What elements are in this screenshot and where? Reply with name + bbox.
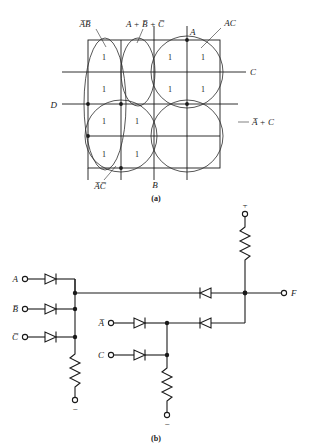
supply-terminal-negative-2[interactable] xyxy=(164,412,169,417)
axis-label-a: A xyxy=(189,27,196,37)
input-label-cbar: C̅ xyxy=(12,332,19,342)
label-ab-bar: A̅B̅ xyxy=(79,19,91,29)
diode-cbar xyxy=(45,332,56,343)
input-terminal-c[interactable] xyxy=(108,352,113,357)
kmap-cell-r1c0: 1 xyxy=(102,85,106,94)
kmap-cell-r0c0: 1 xyxy=(102,53,106,62)
kmap-cell-r1c3: 1 xyxy=(201,85,205,94)
kmap-cell-r2c0: 1 xyxy=(102,117,106,126)
diode-c xyxy=(134,350,145,361)
leader-a-bbar-cbar xyxy=(137,29,143,43)
supply-label-positive: + xyxy=(242,205,247,210)
diode-a xyxy=(45,274,56,285)
caption-panel-a: (a) xyxy=(151,194,161,203)
resistor-pullup xyxy=(240,224,250,263)
caption-panel-b: (b) xyxy=(151,434,161,443)
input-label-c: C xyxy=(98,350,105,360)
resistor-middle xyxy=(162,365,172,404)
label-abar-cbar: A̅C̅ xyxy=(93,181,106,191)
kmap-group-labels: A̅B̅ A + B̅ + C̅ AC A̅ + C A̅C̅ xyxy=(79,18,275,191)
diode-out-upper xyxy=(200,288,211,299)
axis-label-b: B xyxy=(152,180,158,190)
input-row-bbar: B̅ xyxy=(13,304,78,315)
kmap-cell-r3c1: 1 xyxy=(135,150,139,159)
input-row-a: A xyxy=(12,274,76,294)
kmap-cell-r0c3: 1 xyxy=(201,53,205,62)
input-label-bbar: B̅ xyxy=(13,304,19,314)
diode-abar xyxy=(134,318,145,329)
input-row-abar: A̅ xyxy=(98,318,170,329)
input-row-cbar: C̅ xyxy=(12,332,77,343)
diode-bbar xyxy=(45,304,56,315)
supply-terminal-positive[interactable] xyxy=(242,211,247,216)
kmap-axis-labels: A C D B xyxy=(50,27,258,190)
axis-label-d: D xyxy=(50,100,58,110)
input-terminal-abar[interactable] xyxy=(108,320,113,325)
input-terminal-a[interactable] xyxy=(22,276,27,281)
supply-label-negative-1: − xyxy=(72,404,77,414)
resistor-left xyxy=(70,351,80,390)
output-terminal-f[interactable] xyxy=(281,290,286,295)
input-terminal-bbar[interactable] xyxy=(22,306,27,311)
kmap-cell-r1c2: 1 xyxy=(168,85,172,94)
diode-out-lower xyxy=(200,318,211,329)
output-stage: F + xyxy=(75,205,297,329)
output-label-f: F xyxy=(290,288,297,298)
label-ac: AC xyxy=(223,18,236,28)
figure-container: 1 1 1 1 1 1 1 1 1 1 A̅B̅ A + B̅ + C̅ AC … xyxy=(0,0,312,445)
karnaugh-map-panel: 1 1 1 1 1 1 1 1 1 1 A̅B̅ A + B̅ + C̅ AC … xyxy=(0,0,312,205)
input-group-left: A B̅ C̅ xyxy=(12,274,81,415)
label-a-bbar-cbar: A + B̅ + C̅ xyxy=(125,19,165,29)
input-terminal-cbar[interactable] xyxy=(22,334,27,339)
label-abar-c: A̅ + C xyxy=(251,117,275,127)
input-label-abar: A̅ xyxy=(98,318,105,328)
kmap-cell-r3c0: 1 xyxy=(102,150,106,159)
kmap-cell-r0c2: 1 xyxy=(168,53,172,62)
kmap-cell-values: 1 1 1 1 1 1 1 1 1 1 xyxy=(102,53,205,159)
supply-terminal-negative-1[interactable] xyxy=(72,397,77,402)
kmap-cell-r2c1: 1 xyxy=(135,117,139,126)
input-label-a: A xyxy=(12,274,19,284)
supply-label-negative-2: − xyxy=(164,419,169,429)
input-group-middle: A̅ C − xyxy=(98,318,173,430)
input-row-c: C xyxy=(98,350,169,361)
axis-label-c: C xyxy=(250,67,257,77)
circuit-panel: A B̅ C̅ xyxy=(0,205,312,445)
